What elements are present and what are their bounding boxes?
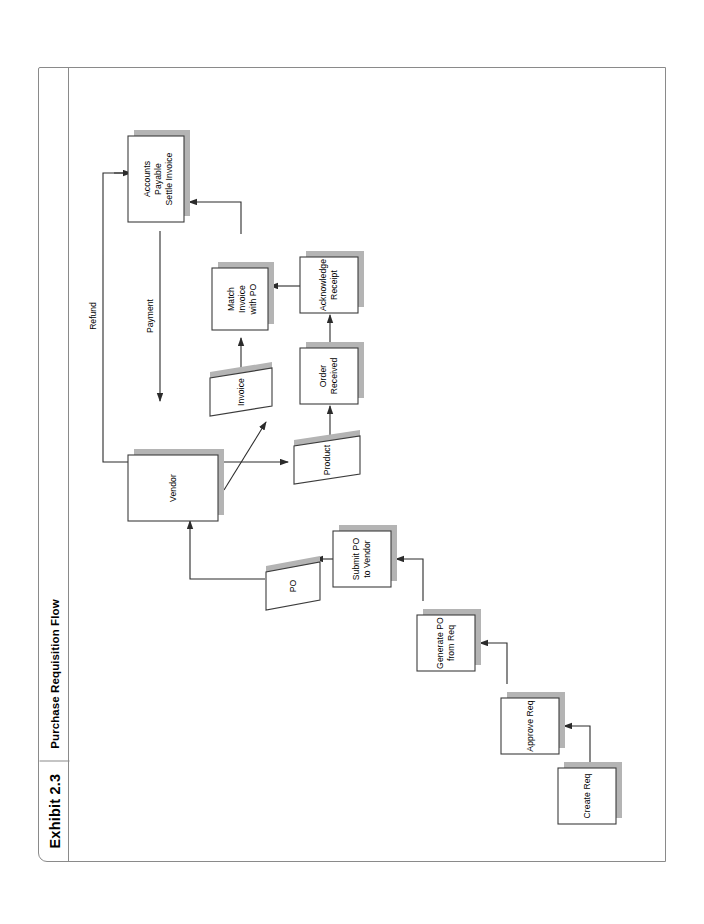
edge-label-refund: Refund (88, 302, 98, 330)
edge-create-to-approve (564, 726, 590, 766)
node-po-document[interactable]: PO (266, 556, 320, 610)
node-label-create-req: Create Req (582, 773, 592, 818)
node-label-match-line3: with PO (248, 283, 258, 315)
exhibit-frame: Exhibit 2.3 Purchase Requisition Flow (38, 67, 666, 862)
node-label-order-received-line1: Order (318, 365, 328, 388)
node-vendor[interactable]: Vendor (128, 449, 224, 521)
node-accounts-payable[interactable]: Accounts Payable Settle Invoice (128, 130, 190, 222)
edge-generate-to-submit (396, 559, 423, 601)
node-invoice-document[interactable]: Invoice (210, 362, 272, 416)
node-label-po-document: PO (288, 579, 298, 592)
node-approve-req[interactable]: Approve Req (501, 692, 565, 754)
edge-vendor-to-invoice (224, 422, 266, 490)
edge-match-to-ap (189, 202, 241, 234)
node-label-ack-receipt-line2: Receipt (329, 270, 339, 300)
edge-approve-to-generate (480, 643, 507, 684)
exhibit-number: Exhibit 2.3 (47, 762, 63, 863)
node-order-received[interactable]: Order Received (300, 342, 364, 404)
node-label-submit-po-line2: to Vendor (362, 540, 372, 578)
flowchart-svg: Payment Refund Create Req Approve Req (70, 68, 666, 862)
node-match-invoice[interactable]: Match Invoice with PO (212, 262, 274, 330)
edge-label-payment: Payment (145, 298, 155, 333)
node-label-ap-line2: Payable (153, 163, 163, 195)
node-label-match-line2: Invoice (237, 285, 247, 313)
node-label-ap-line3: Settle Invoice (164, 152, 174, 205)
page-title: Purchase Requisition Flow (49, 599, 61, 760)
node-product-document[interactable]: Product (294, 430, 360, 484)
node-label-approve-req: Approve Req (525, 700, 535, 751)
exhibit-title-strip: Exhibit 2.3 Purchase Requisition Flow (39, 68, 69, 861)
edge-po-doc-to-vendor (190, 521, 265, 579)
node-generate-po[interactable]: Generate PO from Req (417, 609, 481, 671)
node-label-ack-receipt-line1: Acknowledge (318, 259, 328, 311)
diagram-rotated-group: Payment Refund Create Req Approve Req (70, 68, 666, 862)
node-label-ap-line1: Accounts (142, 161, 152, 197)
node-label-vendor: Vendor (168, 474, 178, 502)
node-create-req[interactable]: Create Req (558, 762, 622, 824)
node-acknowledge-receipt[interactable]: Acknowledge Receipt (300, 251, 364, 313)
node-label-match-line1: Match (226, 287, 236, 311)
node-label-order-received-line2: Received (329, 358, 339, 395)
node-submit-po[interactable]: Submit PO to Vendor (333, 525, 397, 587)
title-divider (40, 761, 70, 762)
node-label-submit-po-line1: Submit PO (351, 538, 361, 581)
exhibit-title-rotated-group: Exhibit 2.3 Purchase Requisition Flow (40, 68, 70, 863)
node-label-product-document: Product (322, 444, 332, 475)
node-label-invoice-document: Invoice (236, 378, 246, 406)
diagram-canvas: Payment Refund Create Req Approve Req (70, 68, 666, 862)
node-label-generate-po-line1: Generate PO (435, 617, 445, 669)
node-label-generate-po-line2: from Req (446, 625, 456, 661)
